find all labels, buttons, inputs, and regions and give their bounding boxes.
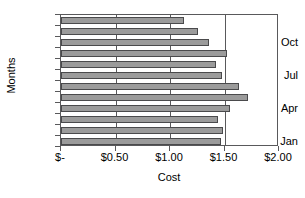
bar	[61, 116, 218, 124]
y-axis-tick-label: Jul	[284, 69, 298, 80]
bar	[61, 105, 230, 113]
y-axis-title: Months	[0, 0, 22, 150]
x-axis-tick-label: $-	[55, 152, 65, 163]
bars-layer	[61, 15, 277, 145]
x-axis-tick-label: $1.50	[210, 152, 238, 163]
bar	[61, 39, 209, 47]
bar	[61, 127, 223, 135]
bar-chart: Months Cost JanAprJulOct$-$0.50$1.00$1.5…	[0, 0, 305, 198]
bar	[61, 72, 222, 80]
x-axis-tick-label: $0.50	[101, 152, 129, 163]
y-axis-tick-label: Oct	[281, 36, 298, 47]
bar	[61, 17, 184, 25]
bar	[61, 138, 221, 146]
bar	[61, 50, 227, 58]
plot-area	[60, 14, 278, 146]
bar	[61, 94, 248, 102]
x-axis-title-text: Cost	[158, 171, 181, 183]
x-axis-tick-label: $2.00	[264, 152, 292, 163]
bar	[61, 28, 198, 36]
y-axis-title-text: Months	[6, 57, 17, 93]
bar	[61, 61, 216, 69]
y-axis-tick-label: Jan	[280, 135, 298, 146]
x-axis-title: Cost	[60, 172, 278, 183]
bar	[61, 83, 239, 91]
x-axis-tick-label: $1.00	[155, 152, 183, 163]
y-axis-tick-label: Apr	[281, 102, 298, 113]
